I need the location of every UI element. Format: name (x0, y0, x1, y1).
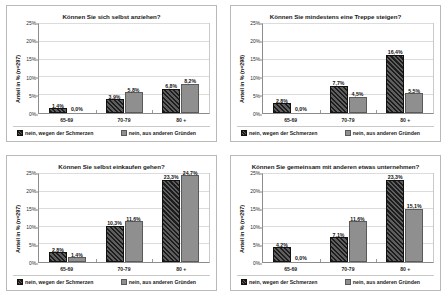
y-axis-tick: 10% (26, 225, 36, 230)
bar-series-0: 10,3% (106, 226, 124, 262)
bar-series-1: 4,5% (349, 97, 367, 113)
x-axis-tick: 80 + (377, 263, 434, 274)
legend-swatch-icon (17, 279, 23, 285)
legend-item-0: nein, wegen der Schmerzen (241, 279, 317, 285)
legend-label: nein, aus anderen Gründen (353, 279, 420, 285)
y-axis-tick: 20% (26, 189, 36, 194)
x-axis-ticks: 65-6970-7980 + (262, 114, 434, 125)
y-axis-tick: 20% (250, 39, 260, 44)
panel-inner: Können Sie selbst einkaufen gehen?Anteil… (7, 156, 216, 290)
legend-label: nein, aus anderen Gründen (129, 279, 196, 285)
bar-group: 16,4%5,5% (376, 24, 433, 113)
y-axis-tick: 15% (26, 57, 36, 62)
axis-area: 25%20%15%10%5%0%2,8%1,4%10,3%11,6%23,3%2… (22, 173, 210, 274)
plot-row: Anteil in % (n=297)25%20%15%10%5%0%4,2%0… (237, 173, 434, 274)
y-axis-tick: 5% (253, 243, 260, 248)
bar-group: 7,1%11,6% (320, 174, 377, 262)
y-axis-ticks: 25%20%15%10%5%0% (22, 23, 38, 114)
y-axis-tick: 20% (250, 189, 260, 194)
legend-label: nein, wegen der Schmerzen (25, 279, 93, 285)
bar-value-label: 8,2% (184, 78, 196, 84)
plot-area: 4,2%0,0%7,1%11,6%23,3%15,1% (262, 173, 434, 263)
legend-swatch-icon (345, 279, 351, 285)
plot-row: Anteil in % (n=298)25%20%15%10%5%0%2,8%0… (237, 23, 434, 125)
bar-series-1: 1,4% (68, 257, 86, 262)
axis-area: 25%20%15%10%5%0%1,4%0,0%3,9%5,8%6,8%8,2%… (22, 23, 210, 125)
y-axis-tick: 10% (26, 75, 36, 80)
legend-label: nein, wegen der Schmerzen (249, 130, 317, 136)
legend-item-0: nein, wegen der Schmerzen (17, 130, 93, 136)
bar-value-label: 6,8% (165, 83, 177, 89)
plot-body: 25%20%15%10%5%0%4,2%0,0%7,1%11,6%23,3%15… (246, 173, 434, 263)
y-axis-tick: 25% (250, 171, 260, 176)
bar-value-label: 5,8% (128, 87, 140, 93)
x-axis-tick: 65-69 (38, 263, 95, 274)
y-axis-label: Anteil in % (n=297) (13, 23, 22, 125)
bar-value-label: 3,9% (109, 94, 121, 100)
bar-series-0: 23,3% (386, 180, 404, 262)
legend-swatch-icon (241, 279, 247, 285)
y-axis-ticks: 25%20%15%10%5%0% (22, 173, 38, 263)
bar-groups: 4,2%0,0%7,1%11,6%23,3%15,1% (263, 174, 433, 262)
chart-grid: Können Sie sich selbst anziehen?Anteil i… (0, 0, 448, 299)
plot-area: 1,4%0,0%3,9%5,8%6,8%8,2% (38, 23, 210, 114)
axis-area: 25%20%15%10%5%0%4,2%0,0%7,1%11,6%23,3%15… (246, 173, 434, 274)
bar-value-label: 11,6% (126, 216, 140, 222)
chart-title: Können Sie sich selbst anziehen? (13, 13, 210, 21)
y-axis-tick: 15% (26, 207, 36, 212)
panel-frame: Können Sie sich selbst anziehen?Anteil i… (6, 5, 217, 142)
bar-value-label: 2,8% (52, 247, 64, 253)
legend-swatch-icon (345, 130, 351, 136)
bar-group: 10,3%11,6% (96, 174, 153, 262)
y-axis-tick: 10% (250, 75, 260, 80)
chart-legend: nein, wegen der Schmerzennein, aus ander… (13, 126, 210, 137)
bar-group: 4,2%0,0% (263, 174, 320, 262)
tick-mark (260, 263, 262, 264)
plot-body: 25%20%15%10%5%0%2,8%1,4%10,3%11,6%23,3%2… (22, 173, 210, 263)
y-axis-tick: 5% (29, 243, 36, 248)
panel-inner: Können Sie gemeinsam mit anderen etwas u… (231, 156, 440, 290)
panel-inner: Können Sie sich selbst anziehen?Anteil i… (7, 6, 216, 141)
x-axis-tick: 65-69 (38, 114, 95, 125)
x-axis-ticks: 65-6970-7980 + (38, 114, 210, 125)
bar-value-label: 0,0% (71, 106, 83, 112)
y-axis-label: Anteil in % (n=298) (237, 23, 246, 125)
bar-value-label: 11,6% (350, 216, 364, 222)
chart-panel-3: Können Sie selbst einkaufen gehen?Anteil… (0, 150, 224, 299)
bar-series-0: 3,9% (106, 99, 124, 113)
chart-legend: nein, wegen der Schmerzennein, aus ander… (237, 126, 434, 137)
bar-group: 7,7%4,5% (320, 24, 377, 113)
x-axis-tick: 70-79 (95, 263, 152, 274)
legend-item-1: nein, aus anderen Gründen (121, 130, 196, 136)
y-axis-ticks: 25%20%15%10%5%0% (246, 23, 262, 114)
panel-inner: Können Sie mindestens eine Treppe steige… (231, 6, 440, 141)
bar-group: 3,9%5,8% (96, 24, 153, 113)
x-axis-tick: 80 + (377, 114, 434, 125)
bar-value-label: 23,3% (164, 174, 179, 180)
x-axis-tick: 70-79 (319, 263, 376, 274)
legend-item-1: nein, aus anderen Gründen (121, 279, 196, 285)
bar-series-0: 6,8% (162, 89, 180, 113)
legend-item-1: nein, aus anderen Gründen (345, 130, 420, 136)
bar-value-label: 23,3% (388, 174, 403, 180)
bar-series-0: 4,2% (273, 247, 291, 262)
x-axis-tick: 65-69 (262, 114, 319, 125)
bar-value-label: 7,7% (333, 80, 345, 86)
bar-value-label: 4,2% (276, 242, 288, 248)
bar-group: 23,3%24,7% (152, 174, 209, 262)
bar-value-label: 4,5% (352, 91, 364, 97)
y-axis-tick: 0% (29, 261, 36, 266)
bar-series-0: 23,3% (162, 180, 180, 262)
chart-legend: nein, wegen der Schmerzennein, aus ander… (13, 275, 210, 286)
y-axis-tick: 0% (253, 112, 260, 117)
bar-value-label: 1,4% (71, 252, 83, 258)
tick-mark (36, 114, 38, 115)
plot-area: 2,8%0,0%7,7%4,5%16,4%5,5% (262, 23, 434, 114)
bar-series-0: 7,7% (330, 86, 348, 113)
x-axis-ticks: 65-6970-7980 + (262, 263, 434, 274)
bar-series-1: 8,2% (181, 84, 199, 113)
panel-frame: Können Sie mindestens eine Treppe steige… (230, 5, 441, 142)
chart-title: Können Sie mindestens eine Treppe steige… (237, 13, 434, 21)
bar-value-label: 0,0% (295, 255, 307, 261)
x-axis-tick: 80 + (153, 114, 210, 125)
